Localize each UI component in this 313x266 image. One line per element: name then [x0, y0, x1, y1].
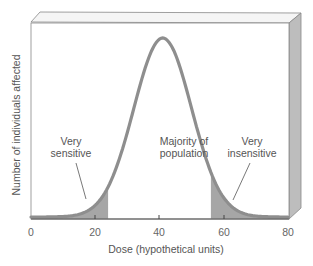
x-tick-label-0: 0 [28, 226, 34, 238]
x-axis-title: Dose (hypothetical units) [108, 243, 224, 255]
label-majority-line1: Majority of [160, 135, 209, 147]
label-very-insensitive-line2: insensitive [227, 147, 276, 159]
x-tick-label-20: 20 [89, 226, 101, 238]
dose-response-chart: 0 20 40 60 80 Dose (hypothetical units) … [0, 0, 313, 266]
x-tick-label-40: 40 [153, 226, 165, 238]
x-tick-label-60: 60 [218, 226, 230, 238]
y-axis-title: Number of individuals affected [10, 54, 22, 195]
label-very-sensitive-line2: sensitive [51, 147, 92, 159]
frame-side-face [289, 13, 301, 219]
x-tick-label-80: 80 [282, 226, 294, 238]
frame-top-face [31, 12, 301, 23]
label-very-sensitive-line1: Very [60, 135, 82, 147]
plot-area [31, 23, 289, 219]
label-very-insensitive-line1: Very [241, 135, 263, 147]
label-majority-line2: population [160, 147, 209, 159]
